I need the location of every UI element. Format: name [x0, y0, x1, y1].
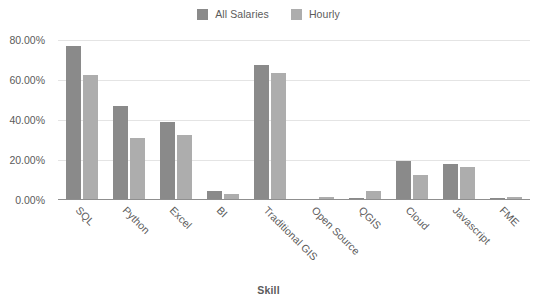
- bar[interactable]: [160, 122, 175, 200]
- x-label-cell: Excel: [152, 201, 199, 273]
- bar[interactable]: [177, 135, 192, 200]
- x-label-cell: Open Source: [294, 201, 341, 273]
- bar[interactable]: [413, 175, 428, 200]
- x-label-cell: Traditional GIS: [247, 201, 294, 273]
- bar[interactable]: [83, 75, 98, 200]
- bar-group: [341, 40, 388, 200]
- x-label-cell: Python: [105, 201, 152, 273]
- bar-groups: [58, 40, 530, 200]
- bar-group: [58, 40, 105, 200]
- bar-group: [388, 40, 435, 200]
- y-axis-tick-label: 60.00%: [0, 74, 45, 86]
- y-axis-tick-label: 0.00%: [0, 194, 45, 206]
- bar[interactable]: [113, 106, 128, 200]
- x-axis-tick-label: FME: [498, 204, 522, 228]
- legend-label-hourly: Hourly: [309, 8, 340, 20]
- plot-area: 0.00%20.00%40.00%60.00%80.00%: [58, 40, 530, 200]
- bar[interactable]: [254, 65, 269, 200]
- bar-group: [105, 40, 152, 200]
- legend-item-hourly: Hourly: [291, 8, 340, 20]
- bar[interactable]: [130, 138, 145, 200]
- bar-group: [247, 40, 294, 200]
- bar-group: [483, 40, 530, 200]
- legend-swatch-all-salaries: [197, 9, 208, 20]
- x-axis-tick-label: Excel: [168, 204, 195, 231]
- x-axis-tick-label: SQL: [73, 204, 97, 228]
- x-axis-title: Skill: [0, 284, 537, 296]
- x-axis-tick-label: QGIS: [356, 204, 383, 231]
- x-axis-tick-label: Python: [120, 204, 152, 236]
- legend-swatch-hourly: [291, 9, 302, 20]
- chart-legend: All Salaries Hourly: [0, 8, 537, 20]
- bar[interactable]: [271, 73, 286, 200]
- bar-group: [294, 40, 341, 200]
- x-axis-tick-label: Cloud: [404, 204, 432, 232]
- x-label-cell: QGIS: [341, 201, 388, 273]
- legend-item-all-salaries: All Salaries: [197, 8, 269, 20]
- y-axis-tick-label: 20.00%: [0, 154, 45, 166]
- x-label-cell: Javascript: [436, 201, 483, 273]
- bar[interactable]: [396, 161, 411, 200]
- y-axis-tick-label: 40.00%: [0, 114, 45, 126]
- x-axis-line: [58, 199, 530, 200]
- y-axis-tick-label: 80.00%: [0, 34, 45, 46]
- x-label-cell: SQL: [58, 201, 105, 273]
- bar-group: [152, 40, 199, 200]
- bar[interactable]: [460, 167, 475, 200]
- bar-group: [436, 40, 483, 200]
- bar[interactable]: [66, 46, 81, 200]
- x-label-cell: Cloud: [388, 201, 435, 273]
- x-axis-tick-label: BI: [215, 204, 231, 220]
- legend-label-all-salaries: All Salaries: [215, 8, 269, 20]
- bar-group: [200, 40, 247, 200]
- bar[interactable]: [443, 164, 458, 200]
- bar-chart: All Salaries Hourly 0.00%20.00%40.00%60.…: [0, 0, 537, 307]
- x-label-cell: FME: [483, 201, 530, 273]
- x-label-cell: BI: [200, 201, 247, 273]
- x-axis-category-labels: SQLPythonExcelBITraditional GISOpen Sour…: [58, 201, 530, 273]
